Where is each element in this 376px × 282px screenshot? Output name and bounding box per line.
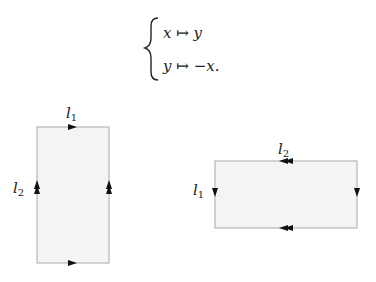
label-l1: l1: [193, 181, 204, 200]
label-l2: l2: [278, 140, 289, 159]
squares-diagram: l1 l2 l2 l1: [0, 0, 376, 282]
right-square: l2 l1: [193, 140, 360, 231]
label-l1: l1: [66, 104, 77, 123]
label-l2: l2: [13, 179, 24, 198]
left-square: l1 l2: [13, 104, 112, 266]
